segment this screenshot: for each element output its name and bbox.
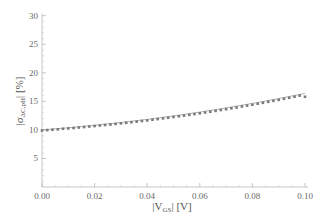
data-point xyxy=(93,125,96,128)
axes: 0.000.020.040.060.080.1051015202530 xyxy=(29,11,313,201)
y-tick-label: 15 xyxy=(29,96,39,106)
data-point xyxy=(209,110,212,113)
data-point xyxy=(146,119,149,122)
data-point xyxy=(256,102,259,105)
data-point xyxy=(57,128,60,131)
data-point xyxy=(114,123,117,126)
data-point xyxy=(188,114,191,117)
data-point xyxy=(120,122,123,125)
data-point xyxy=(288,97,291,100)
data-point xyxy=(151,118,154,121)
data-point xyxy=(125,122,128,125)
data-point xyxy=(293,95,296,98)
data-point xyxy=(204,111,207,114)
data-point xyxy=(220,109,223,112)
y-axis-label: |σΔC,pH| [%] xyxy=(13,76,27,125)
data-point xyxy=(235,106,238,109)
data-point xyxy=(167,116,170,119)
data-point xyxy=(214,110,217,113)
data-point xyxy=(272,100,275,103)
model-curve xyxy=(42,93,305,129)
y-tick-label: 20 xyxy=(29,68,39,78)
data-point xyxy=(130,121,133,124)
data-point xyxy=(62,128,65,131)
y-tick-label: 5 xyxy=(34,153,39,163)
data-point xyxy=(83,126,86,129)
data-point xyxy=(41,129,44,132)
x-tick-label: 0.02 xyxy=(87,191,103,201)
data-point xyxy=(156,118,159,121)
data-point xyxy=(262,102,265,105)
data-point xyxy=(46,129,49,132)
data-point xyxy=(78,126,81,129)
data-point xyxy=(135,120,138,123)
data-point xyxy=(141,120,144,123)
x-axis-label: |VGS| [V] xyxy=(152,200,191,214)
data-point xyxy=(251,103,254,106)
data-point xyxy=(246,104,249,107)
data-point xyxy=(99,124,102,127)
y-tick-label: 25 xyxy=(29,39,39,49)
data-point xyxy=(304,96,307,99)
data-point xyxy=(109,123,112,126)
data-point xyxy=(172,116,175,119)
data-point xyxy=(193,113,196,116)
data-point xyxy=(225,108,228,111)
x-tick-label: 0.10 xyxy=(297,191,313,201)
data-point xyxy=(178,115,181,118)
data-point xyxy=(283,98,286,101)
data-point xyxy=(298,94,301,97)
y-tick-label: 10 xyxy=(29,125,39,135)
x-tick-label: 0.08 xyxy=(245,191,261,201)
data-point xyxy=(88,125,91,128)
data-point xyxy=(267,101,270,104)
data-point xyxy=(199,112,202,115)
x-tick-label: 0.06 xyxy=(192,191,208,201)
data-point xyxy=(183,114,186,117)
data-point xyxy=(67,127,70,130)
data-point xyxy=(162,117,165,120)
chart: 0.000.020.040.060.080.1051015202530 |VGS… xyxy=(0,0,326,223)
data-point xyxy=(241,105,244,108)
data-point xyxy=(104,124,107,127)
data-points xyxy=(41,94,307,132)
data-point xyxy=(277,99,280,102)
data-point xyxy=(230,107,233,110)
data-point xyxy=(72,127,75,130)
data-point xyxy=(51,128,54,131)
y-tick-label: 30 xyxy=(29,11,39,21)
x-tick-label: 0.00 xyxy=(34,191,50,201)
